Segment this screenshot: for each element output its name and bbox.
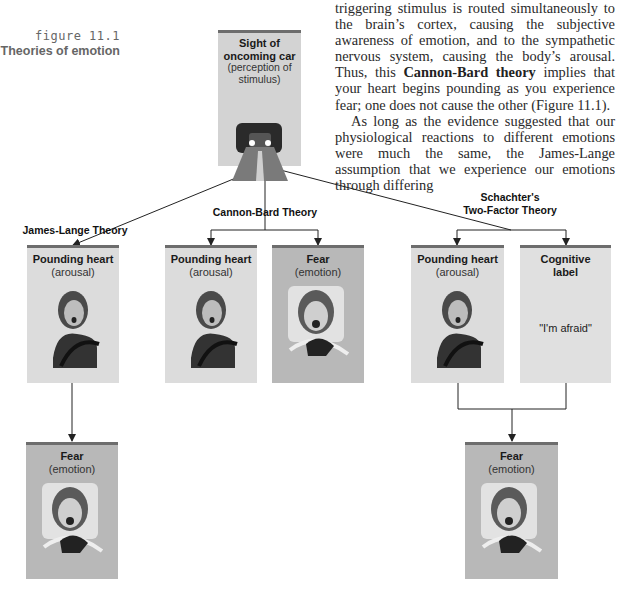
box-heading: Pounding heart xyxy=(27,253,119,266)
box-sub: (emotion) xyxy=(272,266,364,279)
screaming-driver-image xyxy=(40,481,104,553)
stimulus-box: Sight of oncoming car (perception of sti… xyxy=(218,30,301,166)
schachter-label-line1: Schachter's xyxy=(430,191,590,204)
schachter-label: Schachter's Two-Factor Theory xyxy=(430,191,590,216)
cannon-bard-arousal-box: Pounding heart (arousal) xyxy=(165,245,257,383)
james-lange-arousal-box: Pounding heart (arousal) xyxy=(27,245,119,383)
james-lange-label: James-Lange Theory xyxy=(20,224,130,237)
startled-driver-image xyxy=(185,288,239,368)
james-lange-fear-box: Fear (emotion) xyxy=(26,442,118,579)
cannon-bard-label: Cannon-Bard Theory xyxy=(205,206,325,219)
box-heading: Pounding heart xyxy=(165,253,257,266)
box-sub: (arousal) xyxy=(411,266,504,279)
schachter-label-line2: Two-Factor Theory xyxy=(430,204,590,217)
screaming-driver-image xyxy=(479,481,543,553)
screaming-driver-image xyxy=(286,284,350,356)
startled-driver-image xyxy=(431,288,485,368)
box-sub: (arousal) xyxy=(165,266,257,279)
cognitive-label-quote: "I'm afraid" xyxy=(520,322,611,334)
box-heading-line2: label xyxy=(520,266,611,279)
cannon-bard-fear-box: Fear (emotion) xyxy=(272,245,364,383)
box-sub: (arousal) xyxy=(27,266,119,279)
car-headlights-icon xyxy=(232,121,288,183)
schachter-arousal-box: Pounding heart (arousal) xyxy=(411,245,504,383)
box-heading: Fear xyxy=(465,450,558,463)
schachter-fear-box: Fear (emotion) xyxy=(465,442,558,579)
box-heading: Pounding heart xyxy=(411,253,504,266)
schachter-cognitive-label-box: Cognitive label "I'm afraid" xyxy=(520,245,611,383)
box-heading: Fear xyxy=(272,253,364,266)
box-heading: Fear xyxy=(26,450,118,463)
startled-driver-image xyxy=(47,288,101,368)
stimulus-sub: (perception of stimulus) xyxy=(218,62,301,85)
box-sub: (emotion) xyxy=(465,463,558,476)
box-heading-line1: Cognitive xyxy=(520,253,611,266)
box-sub: (emotion) xyxy=(26,463,118,476)
stimulus-heading: Sight of oncoming car xyxy=(218,37,301,62)
